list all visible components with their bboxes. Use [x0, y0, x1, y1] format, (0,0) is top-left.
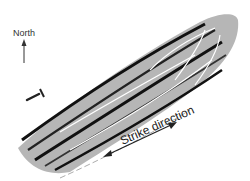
rock-hammer-icon [27, 89, 44, 100]
outcrop-drawing [0, 0, 250, 181]
geology-sketch: North Strike direction [0, 0, 250, 181]
folded-strata [18, 14, 238, 178]
north-arrow-icon [22, 39, 27, 63]
north-label: North [13, 28, 35, 38]
